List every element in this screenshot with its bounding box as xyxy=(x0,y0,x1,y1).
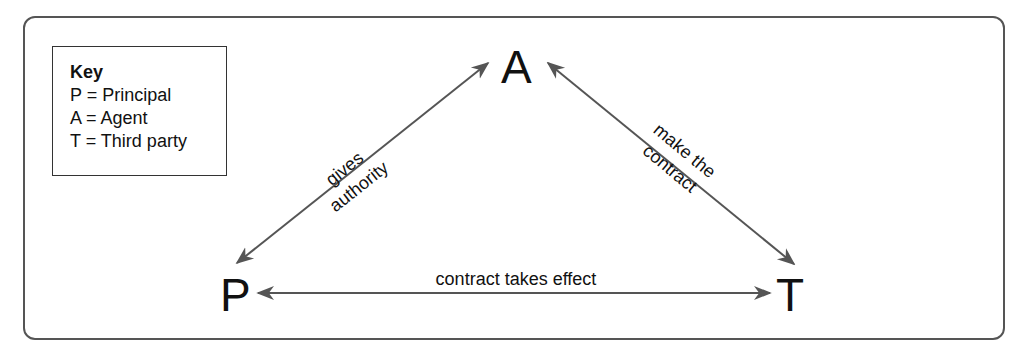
diagram-arrows: gives authority make the contract contra… xyxy=(0,0,1031,351)
label-contract-takes-effect: contract takes effect xyxy=(436,269,597,289)
